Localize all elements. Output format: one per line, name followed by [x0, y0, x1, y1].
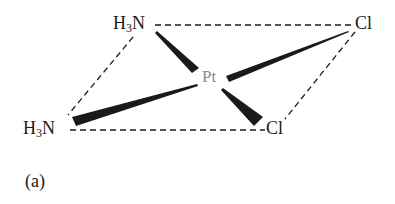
bond-pt-nh3-bottom — [72, 84, 198, 126]
atom-nh3-bottom-n: N — [42, 118, 55, 138]
atom-cl-bottom: Cl — [266, 119, 283, 137]
figure-caption: (a) — [25, 172, 45, 190]
outline-right-edge — [285, 32, 355, 119]
atom-nh3-bottom: H3N — [23, 119, 55, 137]
outline-left-edge — [68, 37, 133, 115]
atom-cl-top: Cl — [355, 14, 372, 32]
atom-nh3-top-n: N — [132, 13, 145, 33]
square-planar-diagram — [0, 0, 395, 204]
bond-pt-cl-top — [226, 31, 349, 82]
atom-nh3-top: H3N — [113, 14, 145, 32]
bond-pt-cl-bottom — [221, 88, 263, 126]
bond-pt-nh3-top — [155, 31, 199, 73]
atom-nh3-bottom-h: H — [23, 118, 36, 138]
atom-nh3-top-h: H — [113, 13, 126, 33]
atom-pt-center: Pt — [202, 68, 216, 85]
